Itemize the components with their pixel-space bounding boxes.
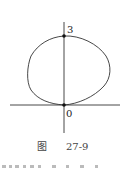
top-point-label: 3 — [67, 24, 73, 35]
cropped-text-fragments — [2, 165, 98, 168]
caption-number: 27-9 — [66, 141, 88, 152]
figure-canvas: 3 0 图 27-9 — [0, 0, 129, 169]
closed-curve — [28, 36, 110, 105]
origin-point — [62, 103, 66, 107]
caption-prefix: 图 — [37, 141, 47, 152]
origin-label: 0 — [66, 108, 72, 119]
top-point — [62, 34, 66, 38]
